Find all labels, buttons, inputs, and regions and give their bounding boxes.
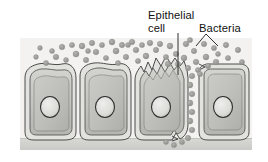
bacterium-extracellular [135,58,140,63]
bacterium-invading [187,118,193,124]
bacterium-extracellular [133,47,139,53]
bacterium-extracellular [119,42,124,47]
bacterium-extracellular [235,47,240,52]
nucleus-cell-2 [96,97,115,118]
nucleus-cell-3 [152,97,171,118]
bacterium-extracellular [239,59,244,64]
bacterium-extracellular [93,49,99,55]
bacterium-extracellular [225,55,230,60]
bacterium-invading [189,91,195,97]
bacterium-extracellular [183,41,189,47]
bacterium-invading [171,142,176,147]
bacterium-extracellular [203,54,209,60]
bacterium-extracellular [211,45,216,50]
epithelial-cell-4 [199,64,249,140]
label-epithelial-cell-line1: Epithelial [148,9,194,21]
bacterium-extracellular [139,42,144,47]
bacterium-extracellular [86,49,91,54]
bacterium-extracellular [59,44,65,50]
bacterium-extracellular [216,52,221,57]
bacterium-invading [189,127,195,133]
bacterium-extracellular [99,42,104,47]
bacterium-extracellular [34,55,39,60]
bacterium-extracellular [147,40,153,46]
bacterium-extracellular [50,49,55,54]
bacterium-extracellular [205,63,210,68]
bacterium-extracellular [126,43,131,48]
bacterium-extracellular [213,59,219,65]
bacterium-invading [197,71,202,76]
bacterium-extracellular [38,46,43,51]
bacterium-extracellular [73,51,79,57]
bacterium-extracellular [167,43,173,49]
bacterium-extracellular [109,39,115,45]
nucleus-cell-1 [41,97,60,118]
bacterium-invading [164,140,169,145]
epithelial-cell-2 [80,63,131,140]
bacterium-invading [189,73,195,79]
nucleus-cell-4 [214,97,233,118]
bacterium-extracellular [187,37,192,42]
bacterium-invading [189,109,195,115]
bacterium-extracellular [113,48,119,54]
bacterium-extracellular [181,55,187,61]
bacterium-extracellular [53,54,59,60]
bacterium-extracellular [83,57,88,62]
epithelium-bacteria-diagram: Epithelial cell Bacteria [0,0,268,162]
bacterium-extracellular [165,61,170,66]
bacterium-extracellular [163,54,168,59]
bacterium-extracellular [153,47,158,52]
bacterium-invading [187,82,193,88]
label-bacteria: Bacteria [199,22,242,34]
bacterium-invading [187,100,193,106]
bacterium-extracellular [185,65,190,70]
bacterium-extracellular [157,41,162,46]
bacterium-extracellular [43,60,48,65]
bacterium-extracellular [223,42,228,47]
bacterium-extracellular [191,48,196,53]
bacterium-invading [185,135,190,140]
label-epithelial-cell-line2: cell [148,22,165,34]
bacterium-extracellular [103,55,108,60]
bacterium-extracellular [64,58,69,63]
bacterium-extracellular [123,54,128,59]
bacterium-invading [179,139,184,144]
bacterium-extracellular [143,53,149,59]
bacterium-extracellular [69,42,74,47]
epithelial-cell-1 [25,63,76,140]
bacterium-extracellular [201,41,206,46]
bacterium-extracellular [79,43,85,49]
bacterium-extracellular [89,40,94,45]
figure-container: Epithelial cell Bacteria [0,0,268,162]
bacterium-extracellular [193,59,199,65]
bacterium-extracellular [115,60,120,65]
